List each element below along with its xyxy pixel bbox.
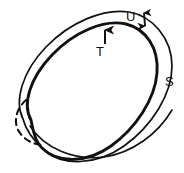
double-arrow-band-width-icon [144, 13, 145, 26]
label-band-width-U: U [126, 10, 135, 23]
inner-core-curve [27, 23, 157, 159]
figure-canvas: T U S [0, 0, 184, 173]
band-diagram-svg [0, 0, 184, 173]
label-outer-boundary-S: S [165, 75, 174, 88]
label-core-curve-T: T [96, 45, 104, 58]
